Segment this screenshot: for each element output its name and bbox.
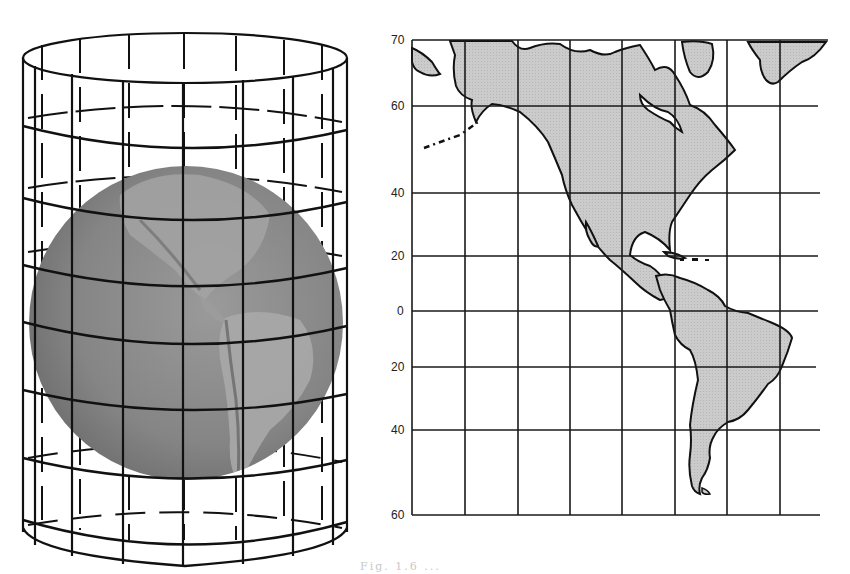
lat-label-60s: 60 bbox=[391, 508, 405, 522]
cylindrical-projection-figure: 70 60 40 20 0 20 40 60 bbox=[0, 0, 850, 574]
aleutian-islands bbox=[424, 122, 478, 148]
lat-label-0: 0 bbox=[397, 304, 404, 318]
landmass-south-america bbox=[656, 274, 792, 494]
latitude-labels: 70 60 40 20 0 20 40 60 bbox=[391, 33, 405, 522]
lat-label-20n: 20 bbox=[391, 249, 405, 263]
figure-caption-fragment: Fig. 1.6 ... bbox=[360, 560, 441, 573]
tierra-del-fuego bbox=[702, 488, 710, 494]
lat-label-70n: 70 bbox=[391, 33, 405, 47]
lat-label-20s: 20 bbox=[391, 360, 405, 374]
cylinder-diagram bbox=[23, 33, 347, 567]
lat-label-40n: 40 bbox=[391, 186, 405, 200]
lat-label-40s: 40 bbox=[391, 423, 405, 437]
landmass-north-america bbox=[412, 41, 826, 300]
lat-label-60n: 60 bbox=[391, 99, 405, 113]
projection-map: 70 60 40 20 0 20 40 60 bbox=[391, 33, 828, 522]
globe bbox=[29, 166, 343, 485]
